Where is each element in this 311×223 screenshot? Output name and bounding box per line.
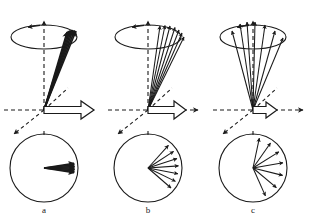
panel-label-c: c	[251, 205, 255, 215]
panel-label-a: a	[42, 205, 46, 215]
figure-container: abc	[0, 0, 311, 223]
spin-dephasing-figure: abc	[0, 0, 311, 223]
panel-label-b: b	[146, 205, 151, 215]
